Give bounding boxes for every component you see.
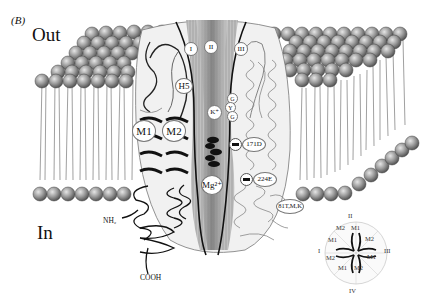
- magnesium-ion-label: Mg²⁺: [201, 175, 223, 195]
- wheel-subunit-ii-label: II: [348, 213, 352, 220]
- negative-charge-171d-icon: [229, 138, 242, 151]
- wheel-m2-bottom-right: M2: [354, 265, 363, 272]
- m2-label: M2: [162, 120, 186, 142]
- wheel-subunit-i-label: I: [318, 248, 320, 255]
- wheel-m1-bottom-left: M1: [338, 265, 347, 272]
- residue-171d-label: 171D: [242, 137, 266, 152]
- wheel-m2-top-left: M2: [336, 225, 345, 232]
- outside-label: Out: [32, 25, 61, 44]
- inside-label: In: [37, 223, 53, 242]
- wheel-m2-left-bottom: M2: [326, 255, 335, 262]
- potassium-ion-label: K⁺: [207, 105, 222, 120]
- c-terminus-label: COOH: [140, 274, 161, 282]
- lipid-tails-left: [40, 80, 133, 180]
- wheel-m2-right-top: M2: [365, 236, 374, 243]
- n-terminus-label: NH₂: [103, 217, 116, 225]
- kir-channel-membrane-diagram: (B) Out In NH₂ COOH I II III H5 M1 M2 G …: [0, 0, 428, 298]
- subunit-i-label: I: [184, 42, 198, 56]
- subunit-ii-label: II: [204, 40, 218, 54]
- filter-g2-label: G: [227, 111, 238, 122]
- residue-224e-label: 224E: [253, 172, 277, 187]
- h5-label: H5: [175, 78, 193, 94]
- wheel-m1-top-right: M1: [351, 225, 360, 232]
- residue-81tmk-label: 81T,M,K: [276, 199, 304, 214]
- wheel-subunit-iii-label: III: [384, 248, 391, 255]
- wheel-m1-right-bottom: M1: [367, 254, 376, 261]
- m1-label: M1: [132, 120, 156, 142]
- negative-charge-224e-icon: [240, 173, 253, 186]
- panel-label: (B): [11, 15, 25, 26]
- wheel-m1-left-top: M1: [328, 237, 337, 244]
- wheel-subunit-iv-label: IV: [349, 288, 356, 295]
- subunit-iii-label: III: [234, 42, 248, 56]
